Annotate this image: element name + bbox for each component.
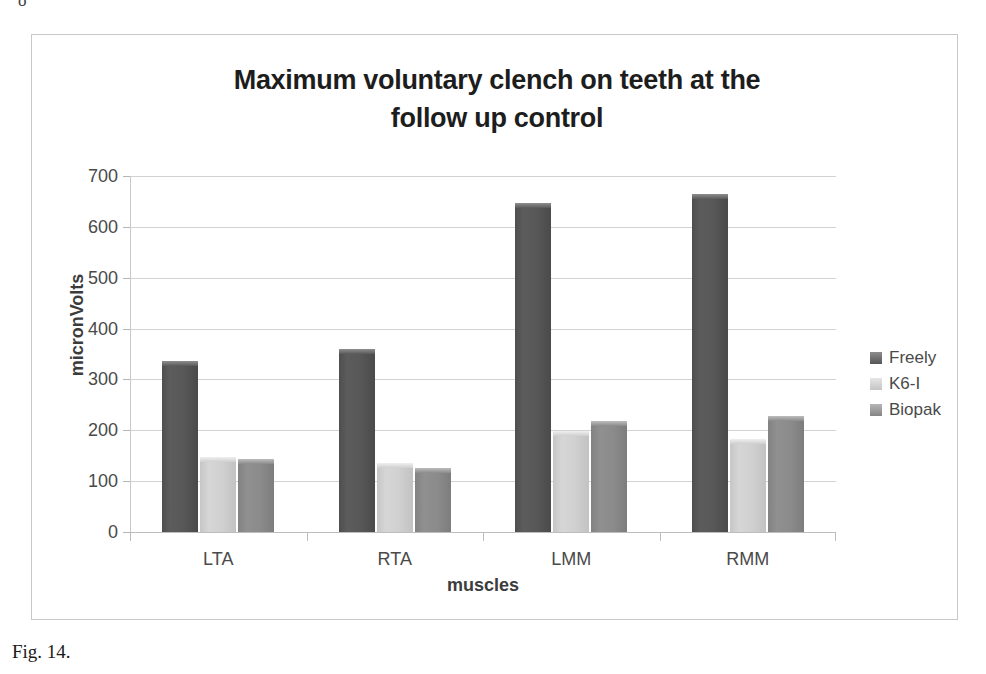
chart-title-line-2: follow up control bbox=[92, 99, 902, 137]
bar-cap bbox=[415, 468, 451, 473]
figure-caption: Fig. 14. bbox=[12, 641, 71, 663]
y-axis-title: micronVolts bbox=[67, 274, 88, 377]
y-axis-tick-label: 700 bbox=[88, 166, 118, 187]
chart-title-line-1: Maximum voluntary clench on teeth at the bbox=[92, 61, 902, 99]
legend-item-label: Biopak bbox=[889, 400, 941, 420]
category-separator bbox=[130, 532, 131, 541]
bar-group: LMM bbox=[483, 176, 660, 532]
bar-group: RTA bbox=[307, 176, 484, 532]
bar-rmm-biopak[interactable] bbox=[768, 416, 804, 532]
bar-rmm-freely[interactable] bbox=[692, 194, 728, 532]
x-axis-tick-label: RTA bbox=[307, 549, 484, 570]
category-separator bbox=[483, 532, 484, 541]
legend-item-label: K6-I bbox=[889, 374, 920, 394]
legend-item-label: Freely bbox=[889, 348, 936, 368]
bar-cap bbox=[162, 361, 198, 366]
y-axis-tick-label: 300 bbox=[88, 369, 118, 390]
bar-lmm-biopak[interactable] bbox=[591, 421, 627, 532]
y-axis-tick bbox=[123, 430, 130, 431]
legend-item-biopak[interactable]: Biopak bbox=[870, 397, 941, 423]
bar-cap bbox=[339, 349, 375, 354]
bar-lmm-k6-i[interactable] bbox=[553, 431, 589, 532]
legend-swatch-icon bbox=[870, 352, 882, 364]
bar-cap bbox=[692, 194, 728, 199]
bar-group: RMM bbox=[660, 176, 837, 532]
bar-cap bbox=[553, 431, 589, 436]
y-axis-tick bbox=[123, 532, 130, 533]
bar-group-bars bbox=[130, 176, 307, 532]
bar-cap bbox=[377, 463, 413, 468]
legend-swatch-icon bbox=[870, 378, 882, 390]
bar-cap bbox=[730, 439, 766, 444]
x-axis-tick-label: LTA bbox=[130, 549, 307, 570]
y-axis-tick-label: 600 bbox=[88, 216, 118, 237]
y-axis-tick bbox=[123, 176, 130, 177]
y-axis-tick-label: 500 bbox=[88, 267, 118, 288]
bar-group: LTA bbox=[130, 176, 307, 532]
bar-lta-biopak[interactable] bbox=[238, 459, 274, 532]
bar-rmm-k6-i[interactable] bbox=[730, 439, 766, 532]
plot-area: 0100200300400500600700 LTARTALMMRMM bbox=[130, 176, 836, 532]
bar-group-bars bbox=[307, 176, 484, 532]
y-axis-tick bbox=[123, 278, 130, 279]
legend-item-k6-i[interactable]: K6-I bbox=[870, 371, 941, 397]
bar-rta-freely[interactable] bbox=[339, 349, 375, 532]
bar-lta-freely[interactable] bbox=[162, 361, 198, 532]
y-axis-tick-label: 200 bbox=[88, 420, 118, 441]
category-separator bbox=[835, 532, 836, 541]
bar-cap bbox=[768, 416, 804, 421]
bar-group-bars bbox=[483, 176, 660, 532]
bar-cap bbox=[515, 203, 551, 208]
bar-rta-k6-i[interactable] bbox=[377, 463, 413, 532]
category-separator bbox=[307, 532, 308, 541]
legend-swatch-icon bbox=[870, 404, 882, 416]
bar-lmm-freely[interactable] bbox=[515, 203, 551, 532]
y-axis-tick bbox=[123, 329, 130, 330]
y-axis-tick-label: 100 bbox=[88, 471, 118, 492]
chart-title: Maximum voluntary clench on teeth at the… bbox=[92, 61, 902, 138]
y-axis-tick bbox=[123, 227, 130, 228]
chart-container: Maximum voluntary clench on teeth at the… bbox=[31, 34, 958, 620]
chart-legend: FreelyK6-IBiopak bbox=[870, 345, 941, 423]
bar-cap bbox=[591, 421, 627, 426]
category-separator bbox=[660, 532, 661, 541]
stray-glyph-top: o bbox=[18, 0, 27, 11]
y-axis-tick-label: 400 bbox=[88, 318, 118, 339]
legend-item-freely[interactable]: Freely bbox=[870, 345, 941, 371]
x-axis-tick-label: RMM bbox=[660, 549, 837, 570]
bar-group-bars bbox=[660, 176, 837, 532]
bar-cap bbox=[200, 457, 236, 462]
y-axis-tick bbox=[123, 481, 130, 482]
bar-lta-k6-i[interactable] bbox=[200, 457, 236, 532]
y-axis-tick bbox=[123, 379, 130, 380]
bar-rta-biopak[interactable] bbox=[415, 468, 451, 532]
y-axis-tick-label: 0 bbox=[108, 522, 118, 543]
bar-cap bbox=[238, 459, 274, 464]
x-axis-title: muscles bbox=[130, 575, 836, 596]
x-axis-tick-label: LMM bbox=[483, 549, 660, 570]
